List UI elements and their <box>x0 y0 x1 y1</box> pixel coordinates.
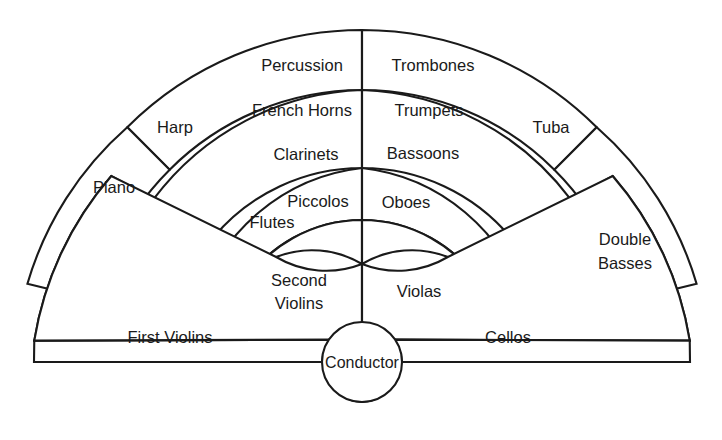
label-percussion: Percussion <box>261 56 343 74</box>
orchestra-seating-diagram: Percussion Trombones Harp Tuba French Ho… <box>0 0 722 440</box>
label-clarinets: Clarinets <box>273 145 338 163</box>
label-double-basses-line2: Basses <box>598 254 652 272</box>
label-second-violins-line2: Violins <box>275 294 323 312</box>
label-second-violins-line1: Second <box>271 271 327 289</box>
label-tuba: Tuba <box>533 118 571 136</box>
label-french-horns: French Horns <box>252 101 352 119</box>
section-cellos[interactable] <box>393 340 690 362</box>
label-cellos: Cellos <box>485 328 531 346</box>
label-piccolos: Piccolos <box>287 192 348 210</box>
label-piano: Piano <box>93 178 135 196</box>
label-oboes: Oboes <box>382 193 431 211</box>
seating-chart-svg: Percussion Trombones Harp Tuba French Ho… <box>0 0 722 440</box>
label-conductor: Conductor <box>325 354 399 371</box>
label-flutes: Flutes <box>250 213 295 231</box>
label-double-basses-line1: Double <box>599 230 651 248</box>
label-harp: Harp <box>157 118 193 136</box>
label-trombones: Trombones <box>392 56 475 74</box>
label-bassoons: Bassoons <box>387 144 459 162</box>
label-first-violins: First Violins <box>128 328 213 346</box>
label-violas: Violas <box>397 282 442 300</box>
label-trumpets: Trumpets <box>394 101 463 119</box>
